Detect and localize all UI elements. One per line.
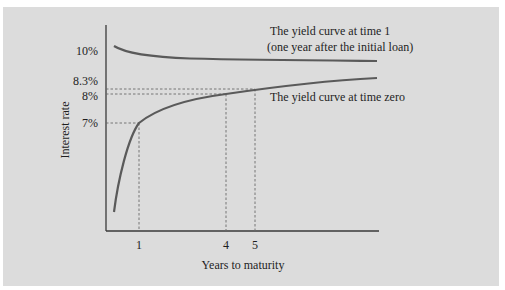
series-label-time-zero: The yield curve at time zero [270,90,405,104]
series-label-time-1-line1: The yield curve at time 1 [270,24,390,38]
x-tick-5: 5 [252,238,258,252]
y-tick-7: 7% [82,116,98,130]
reference-lines [106,89,255,231]
x-tick-4: 4 [223,238,229,252]
y-tick-10: 10% [76,44,98,58]
x-axis-label: Years to maturity [202,258,285,272]
yield-curve-chart: 10% 8.3% 8% 7% 1 4 5 Years to maturity I… [0,0,505,290]
x-tick-1: 1 [136,238,142,252]
series-label-time-1-line2: (one year after the initial loan) [267,40,413,54]
y-axis-label: Interest rate [58,102,72,159]
y-tick-8: 8% [82,89,98,103]
y-tick-8-3: 8.3% [73,74,98,88]
